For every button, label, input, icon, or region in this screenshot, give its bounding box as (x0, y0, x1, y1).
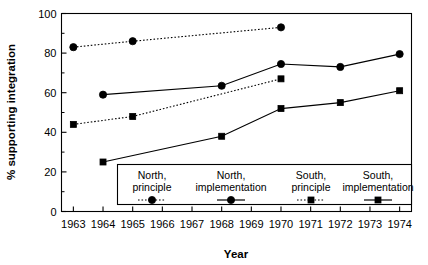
data-point-marker (129, 38, 136, 45)
legend-label-line1: North, (217, 169, 246, 181)
legend-label-line2: implementation (195, 181, 266, 193)
y-axis-title: % supporting integration (5, 44, 17, 180)
y-tick-label: 80 (44, 47, 56, 59)
x-tick-label: 1971 (298, 218, 322, 230)
x-axis-title: Year (224, 248, 249, 260)
x-tick-label: 1965 (120, 218, 144, 230)
chart-canvas: 020406080100 196319641965196619671968196… (0, 0, 428, 265)
y-tick-label: 40 (44, 126, 56, 138)
data-point-marker (227, 196, 234, 203)
x-tick-label: 1967 (180, 218, 204, 230)
data-point-marker (148, 196, 155, 203)
x-tick-label: 1970 (269, 218, 293, 230)
data-point-marker (218, 82, 225, 89)
data-point-marker (99, 91, 106, 98)
data-point-marker (277, 60, 284, 67)
x-tick-label: 1963 (61, 218, 85, 230)
y-tick-label: 100 (38, 8, 56, 20)
x-tick-label: 1966 (150, 218, 174, 230)
data-point-marker (277, 24, 284, 31)
legend-label-line2: implementation (342, 181, 413, 193)
data-point-marker (397, 88, 403, 94)
chart-legend: North,principleNorth,implementationSouth… (118, 165, 414, 205)
x-tick-label: 1964 (91, 218, 115, 230)
data-point-marker (278, 76, 284, 82)
data-point-marker (375, 197, 381, 203)
data-point-marker (396, 50, 403, 57)
x-tick-label: 1969 (239, 218, 263, 230)
legend-label-line2: principle (132, 181, 171, 193)
legend-label-line1: South, (363, 169, 393, 181)
data-point-marker (219, 133, 225, 139)
legend-label-line2: principle (291, 181, 330, 193)
data-point-marker (130, 113, 136, 119)
x-tick-label: 1972 (328, 218, 352, 230)
data-point-marker (278, 106, 284, 112)
chart-figure: 020406080100 196319641965196619671968196… (0, 0, 428, 265)
x-tick-label: 1974 (387, 218, 411, 230)
y-tick-label: 60 (44, 87, 56, 99)
y-tick-label: 20 (44, 166, 56, 178)
data-point-marker (337, 100, 343, 106)
data-point-marker (70, 44, 77, 51)
data-point-marker (70, 121, 76, 127)
y-tick-label: 0 (50, 206, 56, 218)
data-point-marker (337, 63, 344, 70)
data-point-marker (308, 197, 314, 203)
legend-label-line1: South, (296, 169, 326, 181)
data-point-marker (100, 159, 106, 165)
x-tick-label: 1973 (358, 218, 382, 230)
x-tick-label: 1968 (209, 218, 233, 230)
legend-label-line1: North, (138, 169, 167, 181)
